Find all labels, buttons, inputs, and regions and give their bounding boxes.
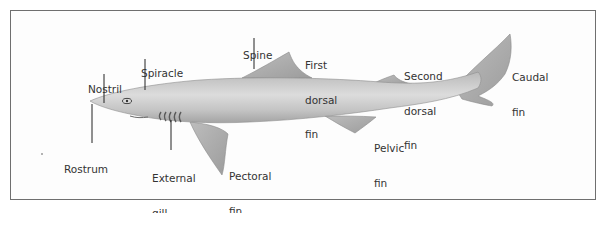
label-caudal-fin: Caudal fin xyxy=(512,49,548,130)
label-pectoral-fin: Pectoral fin xyxy=(229,148,271,213)
label-spine: Spine xyxy=(243,27,272,73)
caudal-fin xyxy=(455,34,511,106)
label-spiracle: Spiracle xyxy=(141,45,183,91)
label-nostril: Nostril xyxy=(88,61,122,107)
decorative-speck xyxy=(41,153,43,155)
label-external-gill-openings: External gill openings xyxy=(152,150,200,213)
label-first-dorsal-fin: First dorsal fin xyxy=(305,37,337,152)
label-rostrum: Rostrum xyxy=(64,141,108,187)
label-second-dorsal-fin: Second dorsal fin xyxy=(404,48,443,163)
label-pelvic-fin: Pelvic fin xyxy=(374,120,404,201)
